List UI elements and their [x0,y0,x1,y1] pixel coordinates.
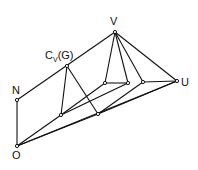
node-o [15,144,18,147]
label-n: N [12,85,20,96]
edge-v-u [115,32,177,81]
node-p1 [103,81,106,84]
label-o: O [12,150,21,161]
edge-v-p2 [115,32,128,83]
label-v: V [110,16,117,27]
node-b [96,112,99,115]
node-cvg [65,64,68,67]
node-u [175,79,178,82]
edge-a-p2 [61,83,128,115]
edge-p3-u [143,81,177,82]
edges [17,32,177,146]
node-p3 [141,80,144,83]
edge-v-p1 [105,32,115,83]
lattice-graph [0,0,198,170]
node-n [15,98,18,101]
node-p2 [126,81,129,84]
edge-cvg-a [61,66,67,115]
node-v [113,30,116,33]
label-cv-g: CV(G) [45,50,74,63]
edge-a-p1 [61,83,105,115]
lattice-diagram: V CV(G) N O U [0,0,198,170]
node-a [59,113,62,116]
label-u: U [181,77,189,88]
edge-v-p3 [115,32,143,82]
